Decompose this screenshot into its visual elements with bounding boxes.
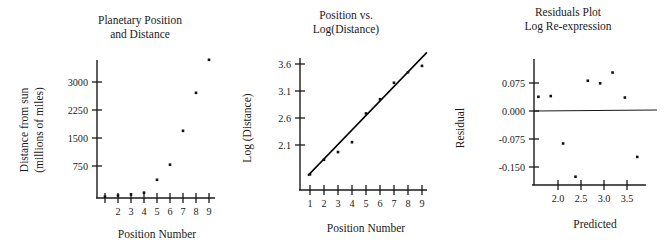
panel-1-point-8 xyxy=(195,92,198,95)
panel-2-point-5 xyxy=(365,112,368,115)
panel-2-point-3 xyxy=(337,151,340,154)
panel-2-title-line-1: Position vs. xyxy=(319,9,373,21)
panel-1-point-1 xyxy=(104,195,107,198)
panel-2-point-7 xyxy=(393,81,396,84)
panel-3-point-4 xyxy=(574,175,577,178)
panel-1-point-3 xyxy=(130,193,133,196)
panel-2-x-ticklabel-8: 8 xyxy=(405,198,410,209)
panel-2-y-ticklabel-2p1: 2.1 xyxy=(278,140,291,151)
panel-3-x-ticklabel-3p0: 3.0 xyxy=(598,193,611,204)
panel-3-y-ticklabel-0p075: 0.075 xyxy=(502,78,525,89)
panel-2-title-line-2: Log(Distance) xyxy=(313,23,380,36)
panel-2-x-ticklabel-2: 2 xyxy=(321,198,326,209)
panel-2-y-ticklabel-3p6: 3.6 xyxy=(278,59,291,70)
panel-2-ylabel: Log (Distance) xyxy=(241,93,254,162)
panel-3-point-3 xyxy=(562,142,565,145)
panel-1-title-line-1: Planetary Position xyxy=(98,14,182,27)
panel-1-point-6 xyxy=(169,163,172,166)
panel-2-xlabel: Position Number xyxy=(327,222,405,234)
panel-1-x-ticklabel-7: 7 xyxy=(180,206,185,217)
panel-1-point-5 xyxy=(156,179,159,182)
panel-2-point-6 xyxy=(379,98,382,101)
panel-1-x-ticklabel-5: 5 xyxy=(154,206,159,217)
panel-3-point-2 xyxy=(549,95,552,98)
panel-2-fit-line xyxy=(308,52,427,175)
panel-1-x-ticklabel-8: 8 xyxy=(193,206,198,217)
panel-1-y-ticklabel-3000: 3000 xyxy=(68,77,88,88)
panel-3-point-5 xyxy=(587,79,590,82)
panel-1-point-4 xyxy=(143,191,146,194)
panel-3-point-7 xyxy=(611,71,614,74)
panel-1-xlabel: Position Number xyxy=(118,228,196,240)
panel-3-xlabel: Predicted xyxy=(573,218,617,230)
panel-position-vs-log-distance: Position vs. Log(Distance) Log (Distance… xyxy=(228,0,440,251)
panel-1-x-ticklabel-6: 6 xyxy=(167,206,172,217)
panel-3-point-9 xyxy=(636,156,639,159)
panel-3-point-1 xyxy=(537,96,540,99)
panel-1-point-2 xyxy=(117,194,120,197)
panel-2-x-ticklabel-3: 3 xyxy=(335,198,340,209)
panel-1-x-ticklabel-9: 9 xyxy=(206,206,211,217)
panel-planetary-position-distance: Planetary Position and Distance Distance… xyxy=(0,0,228,251)
panel-2-point-8 xyxy=(407,71,410,74)
panel-2-y-ticklabel-2p6: 2.6 xyxy=(278,113,291,124)
panel-3-title-line-1: Residuals Plot xyxy=(535,6,602,18)
panel-1-data-points xyxy=(104,59,211,198)
panel-2-point-9 xyxy=(421,65,424,68)
panel-2-svg: Position vs. Log(Distance) Log (Distance… xyxy=(228,0,440,251)
panel-3-title-line-2: Log Re-expression xyxy=(524,20,611,33)
panel-1-ylabel-line-2: (millions of miles) xyxy=(33,87,46,173)
panel-3-x-ticklabel-2p0: 2.0 xyxy=(552,193,565,204)
panel-2-data-points xyxy=(309,65,424,176)
panel-1-y-ticklabel-1500: 1500 xyxy=(68,133,88,144)
panel-2-y-ticklabel-3p1: 3.1 xyxy=(278,86,291,97)
panel-1-svg: Planetary Position and Distance Distance… xyxy=(0,0,228,251)
panel-1-y-ticklabel-2250: 2250 xyxy=(68,105,88,116)
panel-2-x-ticklabel-7: 7 xyxy=(391,198,396,209)
panel-1-x-ticklabel-3: 3 xyxy=(128,206,133,217)
panel-1-x-ticklabel-2: 2 xyxy=(115,206,120,217)
panel-1-point-9 xyxy=(208,59,211,62)
panel-2-x-ticklabel-6: 6 xyxy=(377,198,382,209)
panel-3-data-points xyxy=(537,71,638,178)
panel-3-x-ticklabel-2p5: 2.5 xyxy=(575,193,588,204)
panel-2-x-ticklabel-9: 9 xyxy=(419,198,424,209)
panel-1-x-ticklabel-4: 4 xyxy=(141,206,146,217)
panel-2-x-ticklabel-1: 1 xyxy=(307,198,312,209)
panel-2-x-ticklabel-4: 4 xyxy=(349,198,354,209)
panel-1-point-7 xyxy=(182,130,185,133)
panel-residuals-plot: Residuals Plot Log Re-expression Residua… xyxy=(440,0,670,251)
panel-3-x-ticklabel-3p5: 3.5 xyxy=(621,193,634,204)
panel-3-y-ticklabel-neg0p075: -0.075 xyxy=(499,134,525,145)
panel-1-y-ticklabel-750: 750 xyxy=(73,161,88,172)
panel-3-point-8 xyxy=(624,96,627,99)
panel-3-y-ticklabel-0p000: 0.000 xyxy=(502,106,525,117)
panel-1-ylabel-line-1: Distance from sun xyxy=(18,88,30,173)
panel-1-title-line-2: and Distance xyxy=(110,28,170,40)
panel-2-point-1 xyxy=(309,173,312,176)
panel-3-point-6 xyxy=(599,82,602,85)
three-panel-scatter-figure: Planetary Position and Distance Distance… xyxy=(0,0,670,251)
panel-3-ylabel: Residual xyxy=(454,108,466,148)
panel-3-zero-line xyxy=(534,110,657,111)
panel-2-x-ticklabel-5: 5 xyxy=(363,198,368,209)
panel-3-y-ticklabel-neg0p150: -0.150 xyxy=(499,162,525,173)
panel-3-svg: Residuals Plot Log Re-expression Residua… xyxy=(440,0,670,251)
panel-2-point-4 xyxy=(351,141,354,144)
panel-2-point-2 xyxy=(323,159,326,162)
